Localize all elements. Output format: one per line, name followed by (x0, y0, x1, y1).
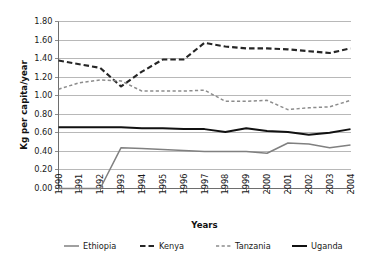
x-tick-label: 1998 (220, 174, 230, 195)
x-tick-label: 2000 (262, 174, 272, 195)
y-tick-label: 0.80 (34, 109, 52, 119)
x-tick-label: 2003 (325, 174, 335, 195)
x-axis-title: Years (190, 220, 217, 230)
x-tick-label: 1994 (137, 174, 147, 195)
y-tick-label: 1.60 (34, 35, 52, 45)
x-tick-label: 2004 (346, 174, 356, 195)
gridlines (59, 22, 351, 189)
x-tick-label: 1996 (179, 174, 189, 195)
y-tick-label: 1.20 (34, 72, 52, 82)
line-chart: 1.801.601.401.201.000.800.600.400.200.00… (0, 0, 365, 259)
x-tick-label: 2002 (304, 174, 314, 195)
x-tick-label: 1999 (241, 174, 251, 195)
legend-label-kenya: Kenya (159, 241, 184, 251)
y-tick-label: 0.20 (34, 164, 52, 174)
y-tick-label: 1.80 (34, 16, 52, 26)
legend-label-tanzania: Tanzania (234, 241, 271, 251)
x-tick-label: 1990 (54, 174, 64, 195)
legend-label-ethiopia: Ethiopia (83, 241, 116, 251)
x-axis-tick-labels: 1990199119921993199419951996199719981999… (54, 174, 356, 195)
y-axis-title: Kg per capita/year (19, 59, 29, 149)
x-tick-label: 1995 (158, 174, 168, 195)
series-lines (59, 43, 351, 189)
legend-label-uganda: Uganda (311, 241, 343, 251)
y-tick-label: 0.00 (34, 183, 52, 193)
x-tick-label: 1991 (74, 174, 84, 195)
y-tick-label: 1.40 (34, 53, 52, 63)
y-tick-label: 0.40 (34, 146, 52, 156)
x-tick-label: 1992 (95, 174, 105, 195)
x-tick-label: 1997 (200, 174, 210, 195)
axes (55, 22, 351, 193)
x-tick-label: 1993 (116, 174, 126, 195)
series-line-tanzania (59, 80, 351, 110)
x-tick-label: 2001 (283, 174, 293, 195)
series-line-uganda (59, 127, 351, 134)
chart-legend: EthiopiaKenyaTanzaniaUganda (64, 241, 343, 251)
chart-canvas: 1.801.601.401.201.000.800.600.400.200.00… (0, 0, 365, 259)
y-axis-tick-labels: 1.801.601.401.201.000.800.600.400.200.00 (34, 16, 52, 193)
y-tick-label: 0.60 (34, 127, 52, 137)
y-tick-label: 1.00 (34, 90, 52, 100)
